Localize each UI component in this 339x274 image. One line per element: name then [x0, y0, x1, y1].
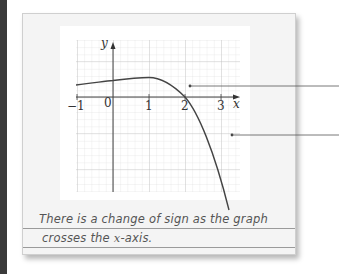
y-axis-label: y: [101, 36, 108, 50]
x-tick-label-3: 3: [217, 99, 225, 113]
ruled-line-2: [23, 247, 295, 248]
note-line-1: There is a change of sign as the graph: [39, 212, 268, 226]
note-line-2-suffix: -axis.: [120, 231, 152, 245]
x-tick-label-neg1: −1: [67, 99, 85, 113]
note-line-2: crosses the x-axis.: [42, 231, 152, 245]
x-tick-label-1: 1: [145, 99, 153, 113]
grid: [76, 40, 240, 192]
note-line-2-prefix: crosses the: [42, 231, 114, 245]
x-tick-label-0: 0: [104, 96, 112, 110]
x-tick-label-2: 2: [181, 99, 189, 113]
ruled-line-1: [23, 228, 295, 229]
x-axis-label: x: [233, 97, 240, 111]
